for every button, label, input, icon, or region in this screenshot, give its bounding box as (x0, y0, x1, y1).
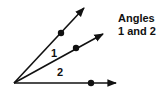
bottom-ray-point (88, 80, 94, 86)
title-line-1: Angles (118, 12, 156, 25)
upper-ray (14, 8, 84, 83)
upper-ray-point (58, 30, 64, 36)
angle-2-label: 2 (57, 66, 63, 78)
angle-1-label: 1 (51, 47, 57, 59)
title-line-2: 1 and 2 (118, 25, 156, 38)
diagram-title: Angles 1 and 2 (118, 12, 156, 38)
middle-ray-point (73, 45, 79, 51)
